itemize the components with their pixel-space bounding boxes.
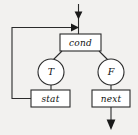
node-true-branch-label: T (48, 66, 55, 77)
flowchart-canvas: cond T F stat (0, 0, 138, 135)
node-false-branch[interactable]: F (98, 59, 124, 85)
node-stat[interactable]: stat (31, 90, 70, 107)
exit-arrow (107, 107, 116, 130)
node-stat-label: stat (41, 94, 59, 104)
node-false-branch-label: F (107, 66, 115, 77)
node-next-label: next (101, 94, 122, 104)
node-cond-label: cond (69, 38, 92, 48)
node-cond[interactable]: cond (60, 34, 101, 51)
edge-cond-to-true (54, 51, 63, 60)
node-next[interactable]: next (92, 90, 130, 107)
node-true-branch[interactable]: T (38, 59, 64, 85)
flowchart-diagram: cond T F stat (0, 0, 138, 135)
edge-cond-to-false (99, 51, 108, 60)
entry-arrow (75, 4, 83, 34)
